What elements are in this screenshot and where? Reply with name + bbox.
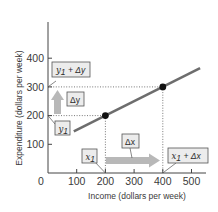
x-tick-label: 400 — [154, 175, 172, 187]
x-tick-label: 100 — [68, 175, 86, 187]
x-tick-label: 200 — [97, 175, 115, 187]
svg-text:Δx: Δx — [125, 137, 136, 147]
delta-y-arrow — [51, 90, 64, 114]
y-tick-label: 300 — [26, 81, 44, 93]
y-tick-label: 200 — [26, 109, 44, 121]
label-box-x1-plus-dx: x1 + Δx — [163, 148, 208, 173]
point-x2-y2 — [159, 84, 166, 91]
point-x1-y1 — [102, 112, 109, 119]
delta-x-arrow — [106, 154, 160, 168]
label-box-dy: Δy — [67, 92, 84, 106]
expenditure-line — [74, 68, 200, 131]
svg-text:Δy: Δy — [70, 95, 81, 105]
x-axis-title: Income (dollars per week) — [88, 191, 186, 201]
label-box-x1: x1 — [82, 149, 105, 173]
label-box-y1: y1 — [48, 116, 70, 136]
y-axis-title: Expenditure (dollars per week) — [14, 50, 24, 165]
label-box-dx: Δx — [122, 134, 139, 158]
label-box-y1-plus-dy: y1 + Δy — [48, 62, 90, 87]
origin-label: 0 — [38, 175, 44, 187]
y-tick-label: 100 — [26, 138, 44, 150]
chart: 100 200 300 400 0 100 200 300 400 500 Ex… — [0, 0, 218, 212]
y-tick-label: 400 — [26, 52, 44, 64]
x-tick-label: 500 — [183, 175, 201, 187]
x-tick-label: 300 — [125, 175, 143, 187]
